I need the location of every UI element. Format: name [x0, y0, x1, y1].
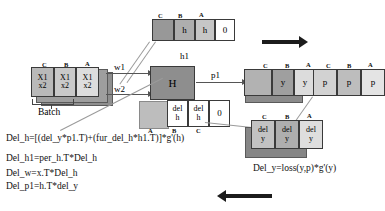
output-y-cell-c [244, 69, 272, 96]
del-y-cell-c-bottom: y [261, 135, 265, 143]
collabel-del-y-a: A [307, 112, 312, 119]
collabel-y-a: A [306, 61, 311, 68]
del-y-cell-b-bottom: y [285, 135, 289, 143]
hidden-state-block: H [150, 66, 195, 100]
input-cell-b-bottom: x2 [61, 82, 69, 90]
input-cell-a: X1 x2 [76, 67, 99, 97]
collabel-del-y-c: C [262, 113, 267, 120]
prev-hidden-cell-a: h [195, 19, 215, 41]
del-y-cell-c: del y [251, 120, 275, 149]
collabel-p-a: A [368, 61, 373, 68]
del-y-cell-a: del y [299, 120, 323, 149]
collabel-y-b: B [285, 62, 289, 69]
collabel-p-c: C [326, 62, 331, 69]
collabel-p-b: B [347, 62, 351, 69]
collabel-del-y-b: B [285, 113, 289, 120]
edge-label-w2: w2 [114, 84, 125, 94]
batch-caption: Batch [38, 107, 60, 117]
formula-del-y: Del_y=loss(y,p)*g'(y) [253, 163, 336, 173]
batch-brace [32, 99, 74, 105]
backward-pass-arrow-head [217, 190, 226, 202]
collabel-prev-hidden-c: C [158, 12, 163, 19]
prediction-p-cell-b: p [337, 69, 361, 96]
prev-hidden-cell-c [152, 19, 174, 41]
del-y-cell-a-bottom: y [309, 135, 313, 143]
del-hidden-cell-b: del h [167, 100, 188, 127]
diagram-canvas: C B A h h 0 h1 C B A X1 x2 X1 x2 X1 x2 B… [0, 0, 385, 211]
formula-del-h1: Del_h1=per_h.T*Del_h [6, 153, 97, 163]
w1-line [106, 73, 150, 74]
collabel-del-hidden-c: C [196, 127, 201, 134]
output-y-block: y y [244, 69, 316, 96]
input-cell-c-bottom: x2 [39, 82, 47, 90]
del-hidden-backplate [139, 101, 169, 129]
prediction-p-cell-c: p [313, 69, 337, 96]
prev-hidden-cell-b: h [174, 19, 195, 41]
delta-y-block: del y del y del y [251, 120, 323, 149]
edge-label-h1: h1 [180, 51, 189, 61]
p1-line [196, 82, 244, 83]
input-cell-a-bottom: x2 [84, 82, 92, 90]
edge-label-w1: w1 [114, 62, 125, 72]
collabel-input-a: A [85, 60, 90, 67]
input-batch-block: X1 x2 X1 x2 X1 x2 [31, 67, 99, 97]
formula-del-w: Del_w=x.T*Del_h [6, 168, 78, 178]
input-cell-c: X1 x2 [31, 67, 54, 97]
collabel-prev-hidden-a: A [199, 11, 204, 18]
forward-pass-arrow-head [299, 36, 308, 48]
forward-pass-arrow-shaft [262, 40, 300, 44]
del-hidden-cell-c-bottom: h [197, 114, 201, 122]
prev-hidden-cell-zero: 0 [215, 19, 235, 41]
output-y-cell-b: y [272, 69, 294, 96]
prediction-p-cell-a: p [361, 69, 385, 96]
collabel-prev-hidden-b: B [178, 12, 182, 19]
edge-label-p1: p1 [211, 70, 220, 80]
formula-del-h: Del_h=[(del_y*p1.T)+(fur_del_h*h1.T)]*g'… [6, 133, 184, 143]
prediction-p-block: p p p [313, 69, 385, 96]
previous-hidden-block: h h 0 [152, 19, 235, 41]
del-y-cell-b: del y [275, 120, 299, 149]
input-cell-b: X1 x2 [54, 67, 76, 97]
del-hidden-cell-b-bottom: h [176, 114, 180, 122]
backward-pass-arrow-shaft [226, 194, 272, 198]
collabel-y-c: C [263, 62, 268, 69]
formula-del-p1: Del_p1=h.T*del_y [6, 181, 78, 191]
